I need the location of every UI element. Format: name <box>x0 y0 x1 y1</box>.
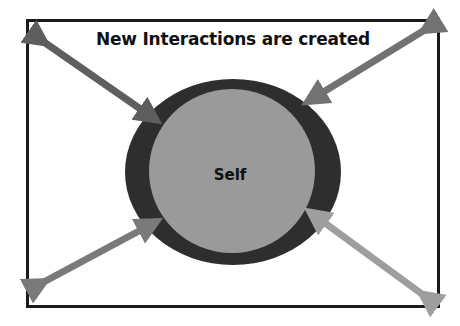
arrow-top-left <box>41 40 152 117</box>
self-node-label: Self <box>190 166 270 184</box>
arrow-bottom-left <box>40 224 152 284</box>
diagram-canvas: New Interactions are created Self <box>0 0 460 326</box>
arrow-bottom-right <box>314 215 426 297</box>
diagram-title: New Interactions are created <box>26 29 440 49</box>
